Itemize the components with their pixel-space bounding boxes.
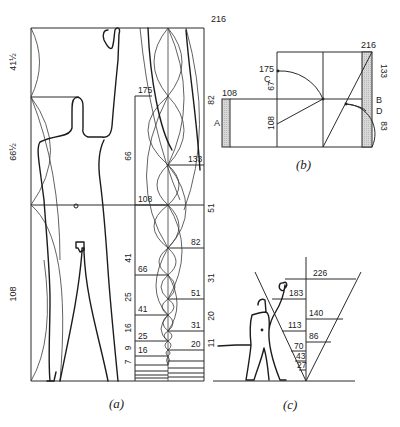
- interval-7: 7: [123, 359, 133, 364]
- modulor-diagram: 41½ 66½ 108 216 175 108 66 41 25 16 66 4…: [0, 0, 400, 427]
- v-right: [306, 272, 361, 381]
- arc-108c: [31, 260, 47, 381]
- label-B: B: [376, 95, 382, 105]
- point-D-start: [345, 103, 348, 106]
- human-figure: [38, 28, 119, 381]
- navel-c: [261, 329, 264, 332]
- label-70: 70: [294, 341, 304, 351]
- point-mid: [322, 98, 325, 101]
- label-20: 20: [191, 339, 201, 349]
- label-51: 51: [191, 288, 201, 298]
- label-41: 41: [138, 304, 148, 314]
- label-140: 140: [309, 308, 323, 318]
- label-16: 16: [138, 345, 148, 355]
- label-D: D: [376, 106, 383, 116]
- label-27: 27: [297, 360, 307, 370]
- label-41-half: 41½: [8, 53, 18, 71]
- panel-c: 226 183 140 113 86 70 43 27 (c): [213, 257, 361, 412]
- arc-41: [31, 28, 40, 97]
- label-216: 216: [211, 14, 226, 24]
- shaded-bar-right: [362, 52, 372, 147]
- interval-11: 11: [206, 338, 216, 347]
- label-108-inner: 108: [138, 194, 152, 204]
- label-25: 25: [138, 331, 148, 341]
- panel-b: 216 108 A B C D 175 67 108 133 83 (b): [214, 40, 389, 172]
- point-175: [277, 70, 280, 73]
- interval-31: 31: [206, 273, 216, 283]
- caption-a: (a): [109, 396, 124, 411]
- label-66-half: 66½: [8, 143, 18, 161]
- label-67: 67: [266, 81, 276, 91]
- interval-41: 41: [123, 253, 133, 263]
- interval-66: 66: [123, 151, 133, 161]
- label-83: 83: [379, 121, 389, 131]
- interval-82: 82: [206, 95, 216, 105]
- hand-marker: [76, 242, 84, 252]
- label-86: 86: [309, 331, 319, 341]
- diag-108: [277, 99, 323, 124]
- shaded-bar-A: [222, 99, 230, 147]
- label-108-b-rot: 108: [266, 116, 276, 130]
- human-figure-c: [218, 282, 287, 380]
- label-183: 183: [289, 288, 303, 298]
- caption-b: (b): [296, 157, 311, 172]
- label-113: 113: [288, 320, 302, 330]
- caption-c: (c): [283, 397, 297, 412]
- arc-C: [278, 71, 323, 99]
- label-175-b: 175: [259, 64, 274, 74]
- interval-51: 51: [206, 203, 216, 213]
- label-216-b: 216: [361, 40, 376, 50]
- label-226: 226: [313, 268, 327, 278]
- label-133: 133: [188, 154, 202, 164]
- interval-25: 25: [123, 292, 133, 302]
- interval-9: 9: [123, 345, 133, 350]
- interval-20: 20: [206, 311, 216, 321]
- label-108: 108: [8, 286, 18, 301]
- interval-16: 16: [123, 323, 133, 333]
- label-66: 66: [138, 264, 148, 274]
- label-31: 31: [191, 320, 201, 330]
- panel-a: 41½ 66½ 108 216 175 108 66 41 25 16 66 4…: [8, 14, 226, 411]
- label-175: 175: [138, 85, 152, 95]
- label-82: 82: [191, 237, 201, 247]
- label-133-b: 133: [379, 64, 389, 78]
- label-A: A: [214, 118, 220, 128]
- label-108-b: 108: [222, 88, 237, 98]
